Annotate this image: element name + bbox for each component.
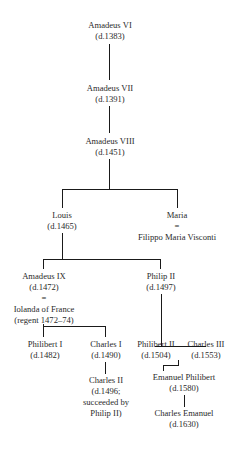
- connector-line: [161, 294, 162, 347]
- node-amadeus-vii: Amadeus VII (d.1391): [87, 83, 133, 105]
- person-dates: (d.1391): [87, 94, 133, 105]
- node-louis: Louis (d.1465): [47, 210, 76, 232]
- person-name: Amadeus VII: [87, 83, 133, 94]
- person-name: Amadeus VIII: [85, 136, 134, 147]
- person-dates: (d.1482): [28, 350, 63, 361]
- connector-line: [105, 326, 106, 337]
- person-name: Charles I: [90, 339, 121, 350]
- person-name: Charles III: [188, 339, 225, 350]
- connector-line: [43, 259, 44, 269]
- node-philibert-ii: Philibert II (d.1504): [137, 339, 174, 361]
- connector-line: [155, 346, 206, 347]
- connector-line: [62, 233, 63, 260]
- node-amadeus-vi: Amadeus VI (d.1383): [88, 20, 132, 42]
- person-name: Philibert I: [28, 339, 63, 350]
- person-note: Philip II): [83, 408, 129, 419]
- connector-line: [43, 326, 106, 327]
- node-emanuel-philibert: Emanuel Philibert (d.1580): [153, 372, 215, 394]
- connector-line: [109, 159, 110, 190]
- node-philip-ii: Philip II (d.1497): [146, 271, 175, 293]
- node-amadeus-ix: Amadeus IX (d.1472) = Iolanda of France …: [14, 271, 75, 326]
- person-dates: (d.1451): [85, 147, 134, 158]
- node-charles-iii: Charles III (d.1553): [188, 339, 225, 361]
- marriage-sign: =: [138, 221, 216, 232]
- person-dates: (d.1553): [188, 350, 225, 361]
- spouse-name: Iolanda of France: [14, 304, 75, 315]
- person-name: Louis: [47, 210, 76, 221]
- connector-line: [163, 365, 164, 371]
- connector-line: [184, 395, 185, 407]
- person-name: Emanuel Philibert: [153, 372, 215, 383]
- node-philibert-i: Philibert I (d.1482): [28, 339, 63, 361]
- connector-line: [160, 259, 161, 269]
- person-name: Maria: [138, 210, 216, 221]
- person-dates: (d.1496;: [83, 386, 129, 397]
- connector-line: [62, 189, 63, 208]
- node-charles-i: Charles I (d.1490): [90, 339, 121, 361]
- connector-line: [109, 106, 110, 133]
- person-dates: (d.1630): [155, 419, 214, 430]
- person-dates: (d.1472): [14, 282, 75, 293]
- connector-line: [163, 365, 179, 366]
- person-dates: (d.1490): [90, 350, 121, 361]
- person-name: Philibert II: [137, 339, 174, 350]
- person-name: Charles Emanuel: [155, 408, 214, 419]
- person-note: succeeded by: [83, 397, 129, 408]
- node-charles-ii: Charles II (d.1496; succeeded by Philip …: [83, 375, 129, 419]
- node-maria: Maria = Filippo Maria Visconti: [138, 210, 216, 243]
- node-charles-emanuel: Charles Emanuel (d.1630): [155, 408, 214, 430]
- person-name: Amadeus VI: [88, 20, 132, 31]
- person-name: Charles II: [83, 375, 129, 386]
- connector-line: [105, 362, 106, 374]
- person-dates: (d.1465): [47, 221, 76, 232]
- person-dates: (d.1504): [137, 350, 174, 361]
- person-dates: (d.1580): [153, 383, 215, 394]
- connector-line: [177, 189, 178, 208]
- person-name: Amadeus IX: [14, 271, 75, 282]
- marriage-sign: =: [14, 293, 75, 304]
- connector-line: [62, 189, 178, 190]
- person-dates: (d.1497): [146, 282, 175, 293]
- spouse-name: Filippo Maria Visconti: [138, 232, 216, 243]
- person-name: Philip II: [146, 271, 175, 282]
- person-dates: (d.1383): [88, 31, 132, 42]
- connector-line: [109, 44, 110, 80]
- connector-line: [43, 259, 161, 260]
- node-amadeus-viii: Amadeus VIII (d.1451): [85, 136, 134, 158]
